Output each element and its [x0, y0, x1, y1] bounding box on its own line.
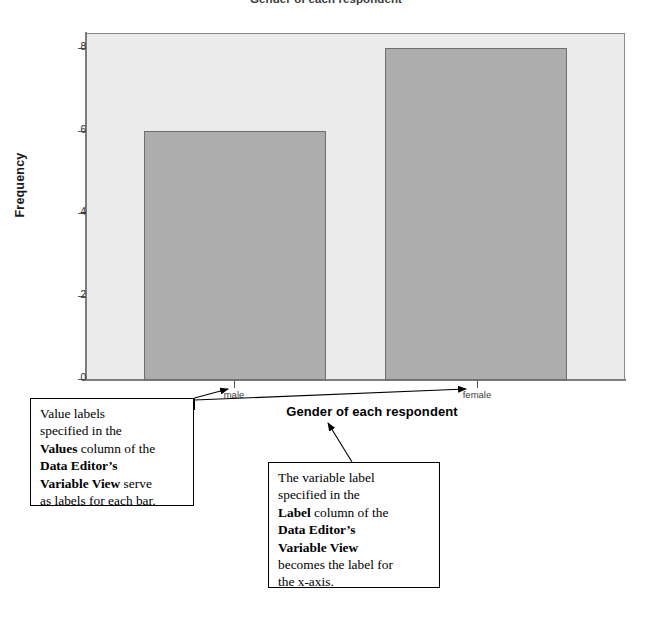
callout-line: The variable label — [278, 469, 431, 486]
x-tick-mark-female — [477, 380, 478, 388]
callout-line: specified in the — [278, 486, 431, 503]
y-tick-label: 2 — [34, 289, 86, 300]
y-axis-title: Frequency — [13, 125, 27, 245]
y-tick-label: 8 — [34, 41, 86, 52]
x-tick-label-female: female — [417, 389, 537, 400]
right-callout-arrow — [328, 423, 352, 462]
callout-line: Value labels — [40, 405, 185, 422]
callout-line: Data Editor’s — [278, 521, 431, 538]
y-tick-label: 4 — [34, 206, 86, 217]
callout-line: as labels for each bar. — [40, 492, 185, 509]
callout-line: becomes the label for — [278, 556, 431, 573]
x-tick-mark-male — [234, 380, 235, 388]
callout-line: the x-axis. — [278, 573, 431, 590]
y-tick-label: 0 — [34, 372, 86, 383]
chart-title: Gender of each respondent — [0, 0, 652, 5]
bar-female — [385, 48, 567, 380]
callout-line: Data Editor’s — [40, 457, 185, 474]
bar-male — [144, 131, 326, 380]
y-tick-label: 6 — [34, 124, 86, 135]
callout-line: Variable View — [278, 539, 431, 556]
value-labels-callout: Value labelsspecified in theValues colum… — [30, 398, 194, 506]
callout-line: Label column of the — [278, 504, 431, 521]
callout-line: Variable View serve — [40, 475, 185, 492]
variable-label-callout: The variable labelspecified in theLabel … — [268, 462, 440, 588]
callout-line: Values column of the — [40, 440, 185, 457]
x-axis-title: Gender of each respondent — [232, 404, 512, 419]
callout-line: specified in the — [40, 422, 185, 439]
